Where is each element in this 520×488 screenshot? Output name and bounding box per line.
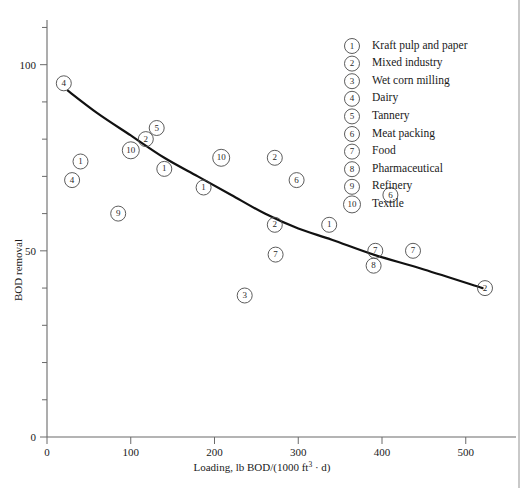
marker-id-label: 2 (273, 219, 278, 229)
y-axis-tick-label: 50 (25, 245, 37, 257)
data-point-marker: 6 (289, 173, 304, 188)
data-point-marker: 7 (268, 247, 283, 262)
legend-item-label: Wet corn milling (372, 74, 450, 87)
data-point-marker: 7 (406, 243, 421, 258)
data-point-markers: 41410251911026217367872 (56, 76, 492, 303)
chart-legend: 1Kraft pulp and paper2Mixed industry3Wet… (344, 39, 468, 213)
legend-item-label: Meat packing (372, 127, 435, 140)
legend-marker-id: 10 (348, 199, 358, 209)
data-point-marker: 5 (149, 121, 164, 136)
data-point-marker: 9 (111, 206, 126, 221)
data-point-marker: 10 (122, 142, 139, 159)
legend-marker-id: 4 (350, 93, 355, 103)
legend-item: 8Pharmaceutical (345, 162, 443, 177)
x-axis-tick-label: 200 (206, 446, 223, 458)
y-axis-ticks (40, 27, 47, 437)
legend-marker-id: 2 (350, 58, 355, 68)
legend-item: 3Wet corn milling (345, 74, 450, 89)
y-axis-title: BOD removal (12, 239, 24, 301)
data-point-marker: 8 (366, 258, 381, 273)
legend-item: 7Food (345, 144, 396, 159)
marker-id-label: 7 (273, 249, 278, 259)
data-point-marker: 1 (73, 154, 88, 169)
x-axis-tick-labels: 0100200300400500 (44, 446, 474, 458)
legend-item: 1Kraft pulp and paper (345, 39, 468, 54)
marker-id-label: 1 (162, 163, 167, 173)
legend-marker-id: 3 (350, 76, 355, 86)
marker-id-label: 4 (62, 78, 67, 88)
x-axis-tick-label: 0 (44, 446, 50, 458)
marker-id-label: 2 (483, 283, 488, 293)
bod-removal-scatter-chart: 050100 0100200300400500 BOD removal Load… (0, 0, 520, 488)
data-point-marker: 10 (213, 149, 230, 166)
data-point-marker: 4 (56, 76, 71, 91)
marker-id-label: 8 (371, 260, 376, 270)
chart-page: 050100 0100200300400500 BOD removal Load… (0, 0, 520, 488)
marker-id-label: 2 (273, 152, 278, 162)
x-axis-ticks (47, 437, 466, 444)
x-axis-tick-label: 300 (290, 446, 307, 458)
legend-item: 6Meat packing (345, 127, 436, 142)
x-axis-title: Loading, lb BOD/(1000 ft3 · d) (194, 460, 331, 475)
legend-item-label: Dairy (372, 91, 398, 104)
legend-item-label: Textile (372, 197, 404, 209)
data-point-marker: 2 (267, 217, 282, 232)
legend-marker-id: 5 (350, 111, 355, 121)
data-point-marker: 1 (196, 180, 211, 195)
data-point-marker: 1 (322, 217, 337, 232)
legend-item-label: Kraft pulp and paper (372, 39, 468, 52)
legend-item-label: Refinery (372, 179, 412, 192)
legend-marker-id: 8 (350, 164, 355, 174)
marker-id-label: 4 (70, 175, 75, 185)
legend-item: 2Mixed industry (345, 56, 443, 71)
marker-id-label: 7 (373, 245, 378, 255)
marker-id-label: 9 (116, 208, 121, 218)
marker-id-label: 1 (201, 182, 206, 192)
marker-id-label: 2 (144, 134, 149, 144)
data-point-marker: 1 (157, 161, 172, 176)
marker-id-label: 1 (327, 219, 332, 229)
x-axis-tick-label: 500 (458, 446, 475, 458)
legend-item: 4Dairy (345, 91, 399, 106)
marker-id-label: 10 (217, 152, 227, 162)
marker-id-label: 5 (154, 123, 159, 133)
legend-item-label: Food (372, 144, 396, 156)
data-point-marker: 3 (237, 288, 252, 303)
legend-item-label: Pharmaceutical (372, 162, 443, 174)
legend-item-label: Tannery (372, 109, 410, 122)
marker-id-label: 3 (242, 290, 247, 300)
y-axis-tick-label: 100 (20, 59, 37, 71)
data-point-marker: 4 (65, 173, 80, 188)
x-axis-tick-label: 100 (123, 446, 140, 458)
data-point-marker: 2 (267, 150, 282, 165)
marker-id-label: 10 (126, 145, 136, 155)
legend-marker-id: 1 (350, 41, 355, 51)
legend-item: 9Refinery (345, 179, 413, 194)
legend-item: 5Tannery (345, 109, 410, 124)
x-axis-tick-label: 400 (374, 446, 391, 458)
legend-item: 10Textile (344, 196, 404, 213)
marker-id-label: 7 (411, 245, 416, 255)
legend-marker-id: 7 (350, 146, 355, 156)
legend-marker-id: 9 (350, 181, 355, 191)
y-axis-tick-label: 0 (31, 431, 37, 443)
marker-id-label: 1 (78, 156, 83, 166)
legend-marker-id: 6 (350, 129, 355, 139)
legend-item-label: Mixed industry (372, 56, 443, 69)
marker-id-label: 6 (294, 175, 299, 185)
